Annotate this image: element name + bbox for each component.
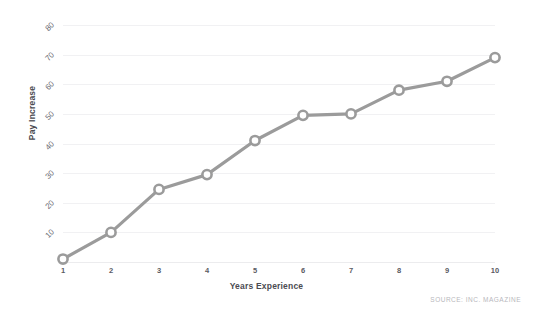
- y-tick-label: 70: [34, 50, 56, 72]
- gridline: [63, 25, 495, 26]
- data-point-marker: [298, 111, 307, 120]
- x-tick-label: 2: [99, 266, 123, 275]
- gridline: [63, 114, 495, 115]
- x-tick-label: 9: [435, 266, 459, 275]
- x-tick-label: 5: [243, 266, 267, 275]
- gridline: [63, 173, 495, 174]
- y-tick-label: 30: [34, 168, 56, 190]
- source-note: SOURCE: INC. MAGAZINE: [430, 296, 521, 303]
- x-tick-label: 7: [339, 266, 363, 275]
- y-axis-title: Pay Increase: [27, 73, 37, 153]
- gridline: [63, 144, 495, 145]
- x-tick-label: 8: [387, 266, 411, 275]
- y-tick-label: 40: [34, 139, 56, 161]
- y-tick-label: 80: [34, 20, 56, 42]
- data-point-marker: [202, 170, 211, 179]
- x-tick-label: 3: [147, 266, 171, 275]
- chart-container: Pay Increase 1020304050607080 1234567891…: [0, 0, 533, 314]
- x-axis-baseline: [63, 262, 495, 263]
- x-tick-label: 4: [195, 266, 219, 275]
- gridline: [63, 232, 495, 233]
- y-tick-label: 20: [34, 198, 56, 220]
- y-tick-label: 10: [34, 228, 56, 250]
- gridline: [63, 84, 495, 85]
- x-tick-label: 6: [291, 266, 315, 275]
- x-tick-label: 10: [483, 266, 507, 275]
- y-tick-label: 60: [34, 80, 56, 102]
- series-line: [63, 58, 495, 259]
- gridline: [63, 55, 495, 56]
- x-tick-label: 1: [51, 266, 75, 275]
- data-point-marker: [394, 86, 403, 95]
- y-tick-label: 50: [34, 109, 56, 131]
- gridline: [63, 203, 495, 204]
- x-axis-title: Years Experience: [0, 281, 533, 291]
- data-point-marker: [154, 185, 163, 194]
